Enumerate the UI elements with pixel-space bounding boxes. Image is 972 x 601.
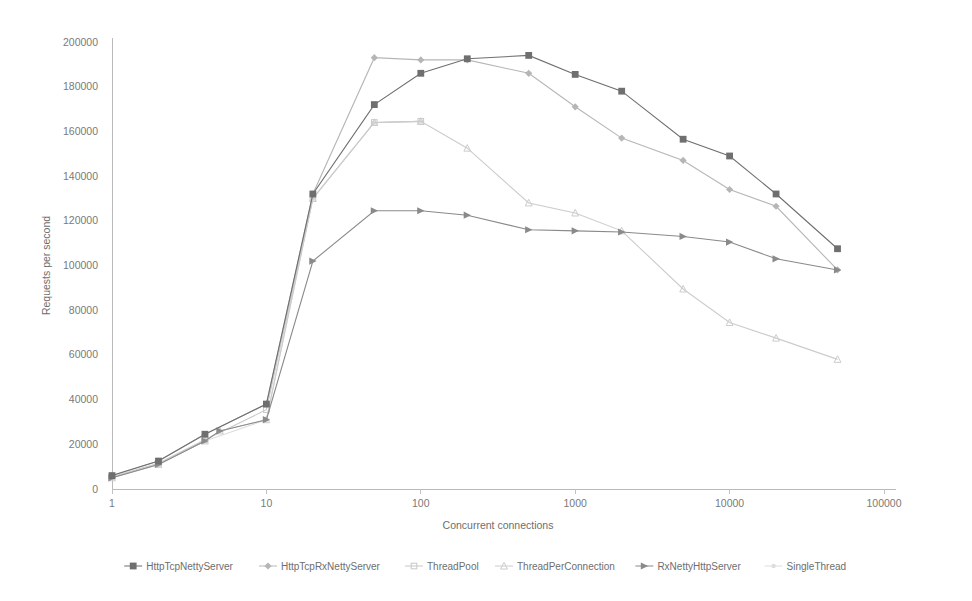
data-point-marker [525,52,532,59]
x-tick-label: 10000 [715,497,744,509]
data-point-marker [417,56,424,63]
data-point-marker [641,562,648,569]
data-point-marker [680,157,687,164]
y-tick-label: 0 [92,483,98,495]
data-point-marker [371,207,378,214]
y-tick-label: 40000 [69,393,98,405]
data-point-marker [109,472,116,479]
legend-label: SingleThread [787,561,846,572]
x-tick-label: 10 [261,497,273,509]
chart-container: 0200004000060000800001000001200001400001… [0,0,972,601]
data-point-marker [264,562,271,569]
axis-titles: Concurrent connectionsRequests per secon… [40,216,553,531]
data-point-marker [464,212,471,219]
y-tick-label: 160000 [63,125,98,137]
data-point-marker [618,135,625,142]
series-ThreadPool [109,119,423,480]
data-point-marker [834,245,841,252]
series-HttpTcpRxNettyServer [108,54,841,479]
legend-label: RxNettyHttpServer [657,561,741,572]
data-point-marker [417,70,424,77]
y-axis: 0200004000060000800001000001200001400001… [63,36,112,495]
data-point-marker [680,136,687,143]
data-point-marker [726,186,733,193]
series-ThreadPerConnection [109,118,841,481]
legend-label: ThreadPerConnection [517,561,615,572]
y-tick-label: 140000 [63,170,98,182]
x-tick-label: 1 [109,497,115,509]
series-HttpTcpNettyServer [109,52,841,479]
legend-item-ThreadPool[interactable]: ThreadPool [405,561,479,572]
data-point-marker [464,55,471,62]
series-SingleThread [110,119,423,480]
data-point-marker [130,563,137,570]
legend-item-RxNettyHttpServer[interactable]: RxNettyHttpServer [635,561,741,572]
data-point-marker [202,431,209,438]
y-tick-label: 80000 [69,304,98,316]
legend-item-HttpTcpNettyServer[interactable]: HttpTcpNettyServer [124,561,233,572]
series-layer [108,52,841,481]
y-tick-label: 60000 [69,348,98,360]
x-tick-label: 1000 [564,497,588,509]
y-tick-label: 20000 [69,438,98,450]
y-tick-label: 180000 [63,80,98,92]
data-point-marker [726,238,733,245]
series-RxNettyHttpServer [108,207,841,481]
data-point-marker [572,71,579,78]
legend-item-SingleThread[interactable]: SingleThread [765,561,846,572]
y-tick-label: 120000 [63,214,98,226]
legend-label: HttpTcpRxNettyServer [281,561,381,572]
data-point-marker [572,103,579,110]
line-chart: 0200004000060000800001000001200001400001… [0,0,972,601]
data-point-marker [773,191,780,198]
x-tick-label: 100000 [866,497,901,509]
data-point-marker [525,70,532,77]
data-point-marker [572,227,579,234]
y-axis-title: Requests per second [40,216,52,315]
data-point-marker [726,153,733,160]
y-tick-label: 200000 [63,36,98,48]
data-point-marker [263,401,270,408]
x-axis-title: Concurrent connections [443,519,554,531]
data-point-marker [618,88,625,95]
y-tick-label: 100000 [63,259,98,271]
legend-item-HttpTcpRxNettyServer[interactable]: HttpTcpRxNettyServer [259,561,381,572]
x-tick-label: 100 [412,497,430,509]
data-point-marker [772,255,779,262]
data-point-marker [371,101,378,108]
data-point-marker [417,207,424,214]
data-point-marker [771,564,775,568]
legend-label: HttpTcpNettyServer [146,561,233,572]
chart-legend: HttpTcpNettyServerHttpTcpRxNettyServerTh… [124,561,846,572]
data-point-marker [680,233,687,240]
data-point-marker [618,228,625,235]
legend-item-ThreadPerConnection[interactable]: ThreadPerConnection [495,561,615,572]
data-point-marker [525,226,532,233]
data-point-marker [371,54,378,61]
data-point-marker [155,458,162,465]
data-point-marker [309,191,316,198]
legend-label: ThreadPool [427,561,479,572]
x-axis: 110100100010000100000 [109,489,902,509]
